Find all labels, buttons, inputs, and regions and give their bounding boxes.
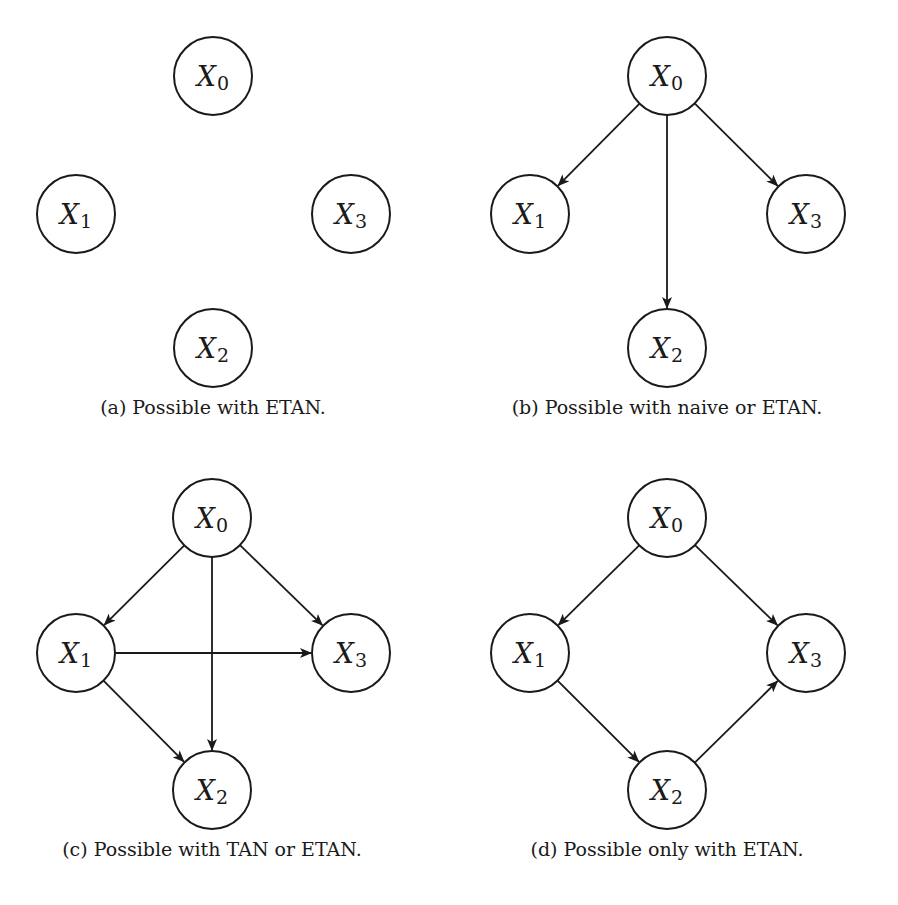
edge-d-x2-to-x3 — [695, 681, 778, 763]
node-c-x2 — [173, 751, 251, 829]
node-a-x0 — [174, 37, 252, 115]
edge-b-x0-to-x3 — [695, 103, 778, 185]
node-d-x0 — [628, 479, 706, 557]
bayesian-network-figure: X0X1X3X2(a) Possible with ETAN.X0X1X3X2(… — [0, 0, 898, 905]
node-d-x3 — [767, 614, 845, 692]
nodes-layer — [37, 37, 845, 829]
node-b-x0 — [628, 37, 706, 115]
edge-d-x0-to-x1 — [558, 545, 639, 625]
edges-layer — [103, 103, 777, 762]
caption-c: (c) Possible with TAN or ETAN. — [62, 838, 362, 860]
node-b-x3 — [767, 175, 845, 253]
node-c-x3 — [312, 614, 390, 692]
node-c-x1 — [37, 614, 115, 692]
edge-d-x0-to-x3 — [695, 545, 777, 625]
caption-a: (a) Possible with ETAN. — [100, 396, 326, 418]
edge-d-x1-to-x2 — [558, 681, 639, 762]
caption-d: (d) Possible only with ETAN. — [530, 838, 803, 860]
node-a-x3 — [312, 175, 390, 253]
edge-b-x0-to-x1 — [558, 104, 639, 186]
node-d-x2 — [628, 751, 706, 829]
node-b-x1 — [491, 175, 569, 253]
node-d-x1 — [491, 614, 569, 692]
node-a-x1 — [37, 175, 115, 253]
node-b-x2 — [628, 309, 706, 387]
caption-b: (b) Possible with naive or ETAN. — [512, 396, 823, 418]
node-a-x2 — [174, 309, 252, 387]
edge-c-x0-to-x3 — [240, 545, 322, 625]
edge-c-x1-to-x2 — [103, 681, 183, 762]
graph-canvas — [0, 0, 898, 905]
edge-c-x0-to-x1 — [104, 545, 184, 624]
node-c-x0 — [173, 479, 251, 557]
